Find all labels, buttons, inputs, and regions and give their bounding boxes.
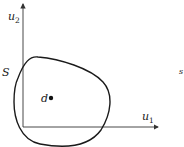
edge-mark: s <box>179 67 183 76</box>
set-s-boundary <box>14 57 110 146</box>
point-d-dot <box>49 96 53 100</box>
x-axis-label: u1 <box>142 110 154 125</box>
point-label: d <box>41 92 48 105</box>
diagram-canvas: u2 u1 S d s <box>0 0 184 147</box>
set-label: S <box>2 66 10 79</box>
y-axis-label: u2 <box>8 10 20 25</box>
